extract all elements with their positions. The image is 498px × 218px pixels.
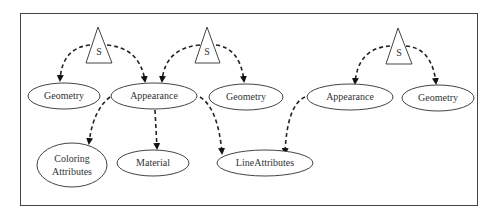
geometry-node-3: Geometry bbox=[402, 85, 474, 111]
edge-s2-appearance1 bbox=[162, 45, 200, 81]
s-node-3-label: S bbox=[396, 47, 402, 58]
edge-s1-appearance1 bbox=[107, 45, 145, 81]
edge-appearance2-lineattributes bbox=[285, 97, 305, 153]
edge-s3-appearance2 bbox=[355, 46, 390, 83]
coloring-attributes-label-line1: Coloring bbox=[54, 153, 90, 164]
geometry-node-2: Geometry bbox=[209, 84, 283, 110]
appearance-node-2-label: Appearance bbox=[326, 91, 374, 102]
s-node-1-label: S bbox=[96, 46, 102, 57]
geometry-node-1: Geometry bbox=[28, 83, 100, 109]
s-node-2-label: S bbox=[204, 46, 210, 57]
appearance-node-1-label: Appearance bbox=[130, 90, 178, 101]
material-node-label: Material bbox=[136, 157, 170, 168]
edge-appearance1-material bbox=[155, 110, 157, 148]
coloring-attributes-node: Coloring Attributes bbox=[37, 143, 107, 187]
edge-s1-geometry1 bbox=[60, 45, 90, 80]
geometry-node-1-label: Geometry bbox=[44, 90, 84, 101]
material-node: Material bbox=[117, 150, 189, 176]
line-attributes-node-label: LineAttributes bbox=[236, 157, 294, 168]
line-attributes-node: LineAttributes bbox=[217, 150, 313, 176]
appearance-node-2: Appearance bbox=[307, 84, 393, 110]
appearance-node-1: Appearance bbox=[111, 83, 197, 109]
coloring-attributes-label-line2: Attributes bbox=[52, 166, 92, 177]
scene-graph-diagram: S S S Geometry Appearance Geometry Appea… bbox=[0, 0, 498, 218]
geometry-node-2-label: Geometry bbox=[226, 91, 266, 102]
geometry-node-3-label: Geometry bbox=[418, 92, 458, 103]
